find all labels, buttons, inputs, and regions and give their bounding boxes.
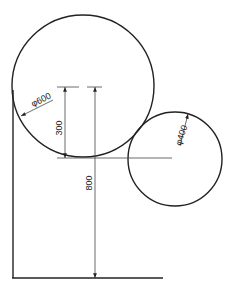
diameter-400-label: φ400 [173, 124, 189, 147]
small-circle [128, 112, 222, 206]
drawing-canvas: 300 800 φ600 φ400 [0, 0, 233, 294]
dimension-800-label: 800 [84, 175, 94, 190]
dimension-300-label: 300 [54, 120, 64, 135]
large-circle [12, 15, 154, 157]
